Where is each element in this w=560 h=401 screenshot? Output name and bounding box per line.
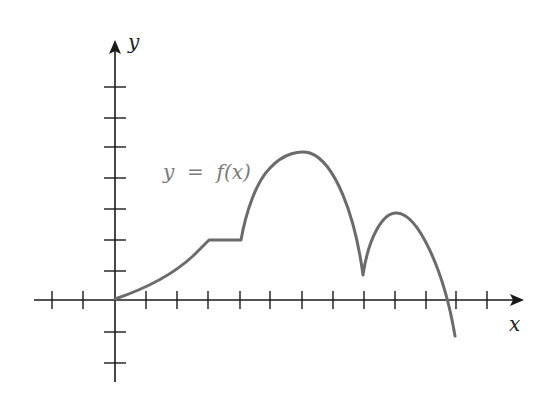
function-label: y = f(x) <box>162 160 251 184</box>
x-axis-label: x <box>509 312 520 336</box>
function-graph: y x y = f(x) <box>0 0 560 401</box>
y-axis-label: y <box>127 30 140 54</box>
